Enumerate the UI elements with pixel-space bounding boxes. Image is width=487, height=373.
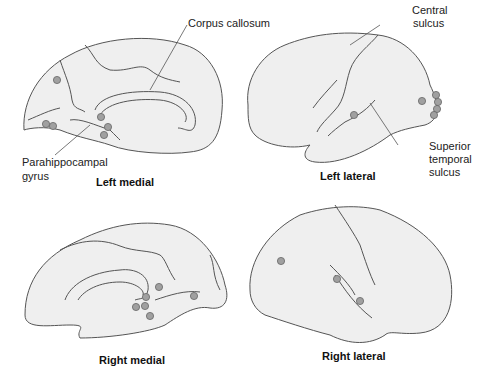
left-lateral-title: Left lateral <box>320 170 376 182</box>
parahippocampal-label-line2: gyrus <box>22 170 49 183</box>
right-medial-brain <box>25 223 227 338</box>
parahippocampal-label-line1: Parahippocampal <box>22 156 108 169</box>
left-medial-title: Left medial <box>96 176 154 188</box>
central-sulcus-label-line1: Central <box>412 4 447 17</box>
brain-diagram <box>0 0 487 373</box>
superior-temporal-label-line2: temporal <box>429 153 472 166</box>
right-medial-title: Right medial <box>99 354 165 366</box>
left-medial-brain <box>24 38 223 153</box>
superior-temporal-label-line1: Superior <box>429 140 471 153</box>
right-lateral-brain <box>250 207 452 343</box>
right-lateral-title: Right lateral <box>322 350 386 362</box>
central-sulcus-label-line2: sulcus <box>413 17 444 30</box>
corpus-callosum-label: Corpus callosum <box>188 17 270 30</box>
superior-temporal-label-line3: sulcus <box>429 166 460 179</box>
